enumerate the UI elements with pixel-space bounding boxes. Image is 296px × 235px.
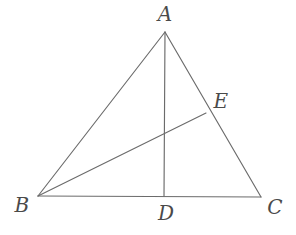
geometry-figure: A B C D E <box>0 0 296 235</box>
point-label-e: E <box>214 91 229 111</box>
figure-canvas <box>0 0 296 235</box>
segment-be <box>38 113 206 196</box>
segments-group <box>38 32 261 197</box>
segment-ab <box>38 32 165 196</box>
point-label-a: A <box>158 4 173 24</box>
point-label-c: C <box>267 197 283 217</box>
segment-bc <box>38 196 261 197</box>
segment-ac <box>165 32 261 197</box>
point-label-d: D <box>158 203 174 223</box>
segment-ad <box>164 32 165 196</box>
point-label-b: B <box>15 195 30 215</box>
